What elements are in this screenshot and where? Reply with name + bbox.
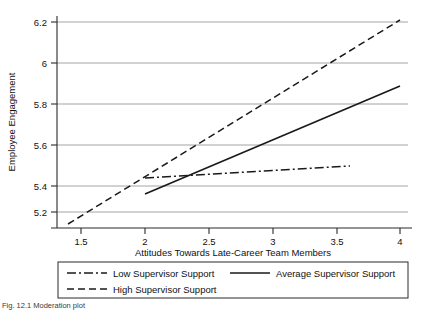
x-tick-label-2: 2 [142, 236, 147, 247]
y-tick-marks [51, 22, 57, 212]
x-tick-label-4: 4 [397, 236, 402, 247]
x-tick-marks [81, 228, 400, 234]
gridlines [57, 22, 408, 212]
chart-svg: 6.2 6 5.8 5.6 5.4 5.2 1.5 2 2.5 3 3.5 4 … [0, 0, 421, 311]
series-line-average-supervisor-support [145, 86, 400, 194]
legend-label-high-supervisor-support: High Supervisor Support [113, 284, 217, 295]
legend-label-average-supervisor-support: Average Supervisor Support [276, 268, 396, 279]
legend-label-low-supervisor-support: Low Supervisor Support [113, 268, 215, 279]
x-tick-label-1.5: 1.5 [74, 236, 87, 247]
x-tick-label-3.5: 3.5 [330, 236, 343, 247]
figure-container: 6.2 6 5.8 5.6 5.4 5.2 1.5 2 2.5 3 3.5 4 … [0, 0, 421, 311]
y-tick-label-6.0: 6 [42, 58, 47, 69]
figure-caption: Fig. 12.1 Moderation plot [2, 300, 419, 311]
x-tick-label-2.5: 2.5 [202, 236, 215, 247]
y-tick-label-5.8: 5.8 [34, 99, 47, 110]
series-line-low-supervisor-support [145, 166, 350, 178]
y-tick-label-5.2: 5.2 [34, 207, 47, 218]
y-tick-label-6.2: 6.2 [34, 17, 47, 28]
x-axis-title: Attitudes Towards Late-Career Team Membe… [135, 247, 331, 258]
y-tick-label-5.6: 5.6 [34, 140, 47, 151]
series-line-high-supervisor-support [68, 20, 400, 224]
y-tick-label-5.4: 5.4 [34, 181, 47, 192]
y-axis-title: Employee Engagement [6, 72, 17, 171]
x-tick-label-3: 3 [270, 236, 275, 247]
